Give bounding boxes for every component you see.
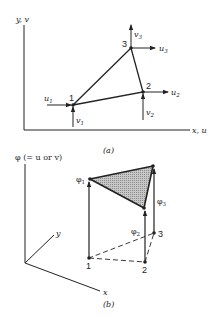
u3-label: u3 <box>159 44 168 54</box>
base-node-1-label: 1 <box>86 261 91 271</box>
x-axis-3d-label: x <box>103 288 108 297</box>
top-node-2 <box>142 206 146 210</box>
y-axis-3d <box>25 235 54 263</box>
v1-label: v1 <box>76 116 84 126</box>
base-node-3 <box>152 231 156 235</box>
phi2-label: φ2 <box>131 227 140 237</box>
node-1 <box>71 103 75 107</box>
phi1-label: φ1 <box>76 175 85 185</box>
u2-label: u2 <box>171 88 180 98</box>
element-triangle <box>73 48 143 105</box>
base-triangle <box>89 233 154 262</box>
caption-a: (a) <box>103 146 114 155</box>
v2-label: v2 <box>146 108 155 118</box>
interpolated-surface <box>90 166 153 208</box>
y-axis-label: y, v <box>15 15 30 24</box>
x-axis-label: x, u <box>192 126 207 135</box>
base-node-2-label: 2 <box>142 265 147 275</box>
base-node-3-label: 3 <box>158 229 163 239</box>
y-axis-3d-label: y <box>55 229 61 238</box>
phi3-label: φ3 <box>157 197 167 207</box>
figure-a: y, v x, u 1 u1 v1 2 u2 v2 3 u3 v3 (a) <box>15 15 207 155</box>
node-1-label: 1 <box>69 93 74 103</box>
caption-b: (b) <box>103 300 114 309</box>
base-node-1 <box>87 256 91 260</box>
node-2-label: 2 <box>146 81 151 91</box>
top-node-1 <box>88 177 92 181</box>
finite-element-diagram: y, v x, u 1 u1 v1 2 u2 v2 3 u3 v3 (a) φ … <box>0 0 215 317</box>
top-node-3 <box>151 164 155 168</box>
u1-label: u1 <box>44 94 53 104</box>
v3-label: v3 <box>134 30 143 40</box>
base-node-2 <box>143 260 147 264</box>
node-3-label: 3 <box>122 39 127 49</box>
phi-axis-label: φ (= u or v) <box>15 153 62 162</box>
figure-b: φ (= u or v) y x 1 2 3 φ1 φ2 φ3 (b) <box>15 153 167 309</box>
